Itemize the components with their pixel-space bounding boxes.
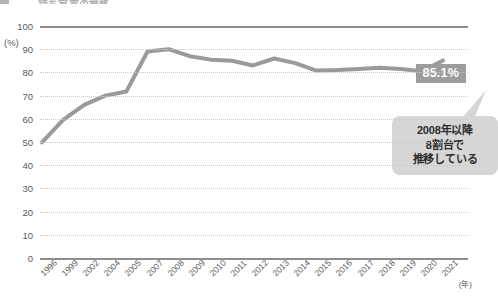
x-axis-tick-label: 2005 (123, 258, 143, 278)
y-axis-tick-label: 0 (28, 253, 33, 264)
x-axis: (年) 199619992002200420052007200820092010… (40, 260, 468, 296)
y-axis-tick-label: 90 (22, 44, 33, 55)
status-badge: 85.1% (416, 64, 466, 83)
x-axis-tick-label: 2016 (334, 258, 354, 278)
x-axis-tick-label: 2015 (313, 258, 333, 278)
gridline (40, 188, 468, 189)
x-axis-tick-label: 2017 (355, 258, 375, 278)
y-axis-tick-label: 30 (22, 183, 33, 194)
gridline (40, 49, 468, 50)
gridline (40, 72, 468, 73)
gridline (40, 212, 468, 213)
x-axis-tick-label: 2013 (271, 258, 291, 278)
y-axis-tick-label: 70 (22, 90, 33, 101)
x-axis-tick-label: 2004 (102, 258, 122, 278)
gridline (40, 235, 468, 236)
y-axis-unit-label: (%) (4, 37, 19, 48)
x-axis-tick-label: 2019 (397, 258, 417, 278)
x-axis-tick-label: 1996 (38, 258, 58, 278)
gridline (40, 142, 468, 143)
y-axis-tick-label: 20 (22, 206, 33, 217)
gridline (40, 119, 468, 120)
x-axis-tick-label: 2010 (207, 258, 227, 278)
x-axis-tick-label: 2011 (228, 258, 248, 278)
x-axis-tick-label: 2008 (165, 258, 185, 278)
x-axis-unit-label: (年) (459, 278, 472, 289)
x-axis-tick-label: 2020 (418, 258, 438, 278)
x-axis-tick-label: 2018 (376, 258, 396, 278)
gridline (40, 165, 468, 166)
y-axis-tick-label: 100 (17, 21, 33, 32)
legend-square-icon (0, 0, 9, 4)
x-axis-tick-label: 2009 (186, 258, 206, 278)
axis-line (40, 26, 468, 28)
y-axis-tick-label: 60 (22, 113, 33, 124)
chart-title-strip: 持ち家率の推移 (0, 0, 474, 4)
x-axis-tick-label: 1999 (60, 258, 80, 278)
x-axis-tick-label: 2021 (439, 258, 459, 278)
y-axis: (%) 1009080706050403020100 (0, 26, 38, 258)
callout-line-1: 2008年以降 (396, 123, 494, 138)
x-axis-tick-label: 2012 (250, 258, 270, 278)
y-axis-tick-label: 40 (22, 160, 33, 171)
plot-area: 85.1% 2008年以降 8割台で 推移している (40, 26, 468, 258)
y-axis-tick-label: 50 (22, 137, 33, 148)
x-axis-tick-label: 2007 (144, 258, 164, 278)
callout-line-2: 8割台で (396, 138, 494, 153)
gridline (40, 96, 468, 97)
x-axis-tick-label: 2014 (292, 258, 312, 278)
y-axis-tick-label: 10 (22, 229, 33, 240)
page-title: 持ち家率の推移 (38, 0, 109, 4)
y-axis-tick-label: 80 (22, 67, 33, 78)
x-axis-tick-label: 2002 (81, 258, 101, 278)
